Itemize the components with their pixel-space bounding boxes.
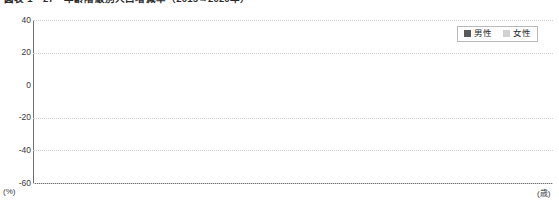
y-axis-tick-label: 40 <box>3 16 31 25</box>
gridline <box>33 150 553 151</box>
gridline <box>33 53 553 54</box>
y-axis-tick-label: -20 <box>3 113 31 122</box>
y-axis-tick-label: 0 <box>3 81 31 90</box>
legend-label-male: 男性 <box>474 29 492 38</box>
chart-legend: 男性 女性 <box>457 26 538 42</box>
legend-item-male: 男性 <box>464 29 492 38</box>
legend-swatch-male-icon <box>464 30 471 37</box>
gridline <box>33 20 553 21</box>
legend-swatch-female-icon <box>503 30 510 37</box>
y-axis-tick-labels: 40200-20-40-60 <box>0 0 31 202</box>
y-axis-tick-label: -60 <box>3 179 31 188</box>
x-axis-unit-label: (歳) <box>537 187 550 198</box>
population-change-bar-chart: 図表 1－27 年齢階級別人口増減率（2015→2020年） 40200-20-… <box>0 0 559 202</box>
gridline <box>33 118 553 119</box>
figure-title: 図表 1－27 年齢階級別人口増減率（2015→2020年） <box>4 0 250 5</box>
y-axis-tick-label: 20 <box>3 48 31 57</box>
legend-item-female: 女性 <box>503 29 531 38</box>
y-axis-tick-label: -40 <box>3 146 31 155</box>
legend-label-female: 女性 <box>513 29 531 38</box>
y-axis-line <box>33 20 34 183</box>
gridline <box>33 183 553 184</box>
plot-area <box>33 20 553 183</box>
y-axis-unit-label: (%) <box>3 187 15 196</box>
